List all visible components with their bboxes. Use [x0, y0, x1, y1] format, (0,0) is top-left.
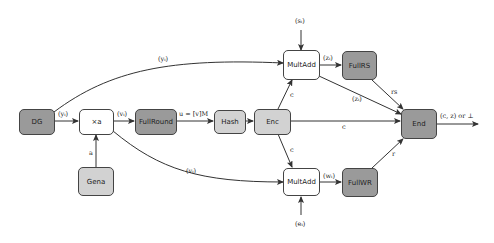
edge-dg-multadd-top [54, 62, 283, 112]
node-fullwr-label: FullWR [348, 179, 372, 187]
label-dg-multadd-top: (yᵢ) [158, 55, 168, 63]
node-dg-label: DG [32, 118, 43, 126]
label-end-output: (c, z) or ⊥ [440, 112, 474, 120]
node-xa-label: ×a [91, 118, 101, 126]
label-si-input: (sᵢ) [295, 17, 305, 25]
node-xa: ×a [79, 109, 114, 135]
node-dg: DG [19, 109, 55, 135]
label-xa-multadd-bottom: (vᵢ) [186, 167, 196, 175]
node-enc: Enc [254, 109, 291, 135]
label-dg-xa: (yᵢ) [58, 110, 68, 118]
label-fullrs-end: rs [391, 88, 397, 96]
protocol-flow-diagram: DG ×a FullRound Hash Enc MultAdd FullRS … [0, 0, 494, 243]
edge-fullwr-end [372, 139, 403, 168]
node-fullwr: FullWR [342, 168, 378, 197]
label-fullwr-end: r [392, 150, 395, 158]
edge-fullrs-end [372, 80, 403, 109]
node-hash-label: Hash [221, 118, 239, 126]
node-multadd-top-label: MultAdd [287, 61, 316, 69]
label-multadd-fullrs: (zᵢ) [323, 54, 333, 62]
label-enc-multadd-top: c [290, 91, 294, 99]
node-enc-label: Enc [266, 118, 279, 126]
label-ei-input: (eᵢ) [295, 220, 305, 228]
label-multadd-top-end: (zᵢ) [352, 95, 362, 103]
label-enc-end: c [342, 123, 346, 131]
node-gena: Gena [78, 167, 114, 196]
label-fullround-hash: u = [v]M [179, 110, 208, 118]
label-enc-multadd-bottom: c [290, 146, 294, 154]
label-xa-fullround: (vᵢ) [117, 110, 127, 118]
node-end-label: End [412, 120, 425, 128]
node-end: End [401, 109, 437, 139]
node-fullround: FullRound [135, 109, 177, 135]
node-multadd-bottom: MultAdd [283, 168, 320, 196]
node-fullrs: FullRS [342, 51, 377, 80]
node-fullrs-label: FullRS [349, 62, 370, 70]
label-gena-xa: a [89, 149, 93, 157]
node-fullround-label: FullRound [139, 118, 173, 126]
node-hash: Hash [214, 110, 246, 134]
node-multadd-bottom-label: MultAdd [287, 178, 316, 186]
edge-xa-multadd-bottom [113, 131, 283, 182]
node-gena-label: Gena [87, 178, 105, 186]
label-multadd-fullwr: (wᵢ) [323, 172, 335, 180]
node-multadd-top: MultAdd [283, 50, 320, 80]
